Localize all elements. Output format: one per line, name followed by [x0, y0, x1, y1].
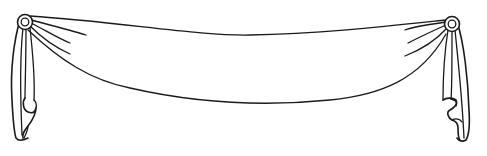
- swag-drawing: [0, 0, 487, 156]
- right-tail: [443, 22, 469, 141]
- right-rosette: [445, 17, 460, 32]
- left-rosette: [18, 15, 33, 30]
- swag-banner-illustration: Swag banner line drawing: [0, 0, 487, 156]
- left-tail: [11, 20, 36, 140]
- swag-fabric: [28, 16, 446, 103]
